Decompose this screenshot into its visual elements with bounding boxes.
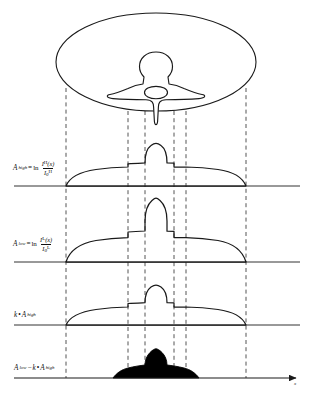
figure-container: Ahigh = ln IH(x) I0H Alow = ln IL(x) I0L… bbox=[0, 0, 313, 401]
label-sub-a-high-symbol: A bbox=[40, 365, 44, 372]
label-a-low-ln: ln bbox=[32, 241, 37, 248]
label-a-low-fraction: IL(x) I0L bbox=[39, 236, 53, 253]
label-sub-minus: − bbox=[27, 365, 31, 372]
label-a-high-equals: = bbox=[28, 165, 32, 172]
scaled-high-energy-profile bbox=[14, 285, 300, 325]
body-cross-section-with-vertebra bbox=[56, 13, 256, 125]
label-k-factor: k bbox=[14, 312, 17, 319]
label-k-a-subscript: high bbox=[27, 313, 36, 318]
label-sub-a-high-subscript: high bbox=[46, 366, 55, 371]
label-a-high-denominator: I0H bbox=[43, 168, 53, 178]
label-a-low: Alow = ln IL(x) I0L bbox=[13, 236, 53, 253]
curve-scaled bbox=[66, 285, 246, 325]
figure-caption bbox=[4, 391, 309, 400]
low-energy-attenuation-profile bbox=[14, 198, 300, 262]
label-a-low-denominator: I0L bbox=[41, 244, 51, 254]
label-k-dot: • bbox=[18, 312, 21, 319]
bone-only-subtraction-profile bbox=[14, 349, 296, 378]
curve-high bbox=[66, 143, 246, 186]
label-subtraction: Alow − k • Ahigh bbox=[14, 365, 54, 372]
label-a-low-symbol: A bbox=[13, 241, 17, 248]
label-sub-a-low-subscript: low bbox=[19, 366, 26, 371]
label-sub-dot: • bbox=[37, 365, 40, 372]
label-a-high: Ahigh = ln IH(x) I0H bbox=[13, 160, 55, 177]
label-sub-a-low-symbol: A bbox=[14, 365, 18, 372]
label-a-high-numerator: IH(x) bbox=[41, 160, 56, 168]
label-a-high-fraction: IH(x) I0H bbox=[41, 160, 56, 177]
vertebral-foramen bbox=[145, 86, 168, 98]
label-k-a-high: k • Ahigh bbox=[14, 312, 36, 319]
x-axis-label: x bbox=[294, 381, 296, 386]
label-a-high-ln: ln bbox=[33, 165, 38, 172]
label-a-low-subscript: low bbox=[18, 242, 25, 247]
label-a-high-subscript: high bbox=[18, 166, 27, 171]
high-energy-attenuation-profile bbox=[14, 143, 300, 186]
label-sub-k-factor: k bbox=[33, 365, 36, 372]
label-k-a-symbol: A bbox=[22, 312, 26, 319]
curve-low bbox=[66, 198, 246, 262]
figure-canvas bbox=[0, 0, 313, 401]
label-a-low-equals: = bbox=[26, 241, 30, 248]
label-a-high-symbol: A bbox=[13, 165, 17, 172]
label-a-low-numerator: IL(x) bbox=[39, 236, 53, 244]
